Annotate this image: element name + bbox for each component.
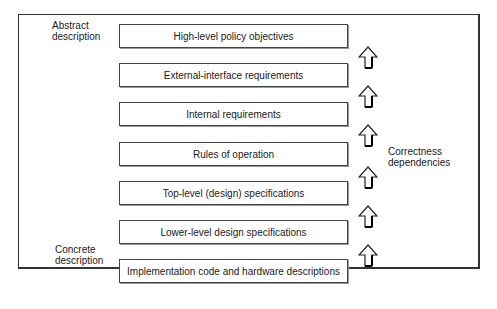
- level-box-external-interface: External-interface requirements: [119, 63, 348, 87]
- level-box-lower-level-specs: Lower-level design specifications: [119, 220, 348, 244]
- concrete-line1: Concrete: [55, 244, 103, 255]
- up-arrow-icon: [358, 124, 378, 148]
- up-arrow-icon: [358, 46, 378, 70]
- dependency-line1: Correctness: [388, 146, 450, 157]
- level-box-top-level-specs: Top-level (design) specifications: [119, 181, 348, 205]
- level-box-internal-requirements: Internal requirements: [119, 102, 348, 126]
- up-arrow-icon: [358, 244, 378, 268]
- correctness-dependencies-label: Correctness dependencies: [388, 146, 450, 168]
- concrete-line2: description: [55, 255, 103, 266]
- level-box-high-level-policy: High-level policy objectives: [119, 24, 348, 48]
- abstract-line1: Abstract: [52, 20, 100, 31]
- up-arrow-icon: [358, 166, 378, 190]
- level-box-implementation: Implementation code and hardware descrip…: [119, 259, 348, 283]
- level-box-rules-of-operation: Rules of operation: [119, 142, 348, 166]
- abstract-description-label: Abstract description: [52, 20, 100, 42]
- concrete-description-label: Concrete description: [55, 244, 103, 266]
- up-arrow-icon: [358, 205, 378, 229]
- up-arrow-icon: [358, 85, 378, 109]
- abstract-line2: description: [52, 31, 100, 42]
- dependency-line2: dependencies: [388, 157, 450, 168]
